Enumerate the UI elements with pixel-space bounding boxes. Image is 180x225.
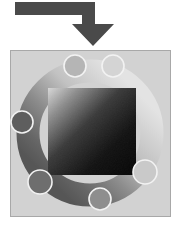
ring-node-3[interactable] — [133, 160, 157, 184]
ring-node-1[interactable] — [64, 55, 86, 77]
diagram-canvas — [0, 0, 180, 225]
ring-node-4[interactable] — [89, 188, 111, 210]
process-ring-diagram — [0, 0, 180, 225]
ring-node-6[interactable] — [11, 111, 33, 133]
gradient-square-texture — [48, 88, 136, 175]
ring-node-5[interactable] — [28, 170, 52, 194]
ring-node-2[interactable] — [102, 55, 124, 77]
